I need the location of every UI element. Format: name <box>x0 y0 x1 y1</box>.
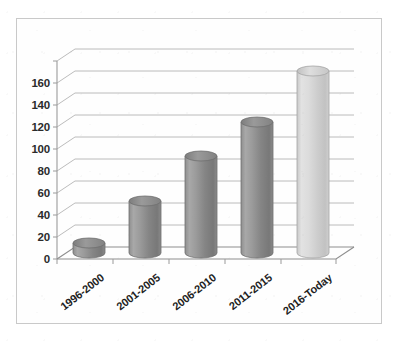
x-tick-label: 2006-2010 <box>170 271 218 312</box>
x-tick-label: 1996-2000 <box>58 271 106 312</box>
bar-2001-2005[interactable] <box>129 196 161 258</box>
y-tick-label: 60 <box>38 187 50 199</box>
x-axis-tick-labels: 1996-2000 2001-2005 2006-2010 2011-2015 … <box>58 271 335 317</box>
y-tick-label: 20 <box>38 231 50 243</box>
x-axis-ticks <box>57 259 336 264</box>
y-tick-label: 0 <box>44 253 50 265</box>
bar-1996-2000[interactable] <box>73 238 105 258</box>
bar-2006-2010[interactable] <box>185 151 217 258</box>
chart-frame: 0 20 40 60 80 100 120 140 160 <box>16 18 382 324</box>
x-tick-label: 2011-2015 <box>227 271 275 312</box>
x-tick-label: 2016-Today <box>281 271 335 317</box>
x-tick-label: 2001-2005 <box>114 271 162 312</box>
y-tick-label: 120 <box>31 121 50 133</box>
y-tick-label: 160 <box>31 77 50 89</box>
bar-2016-today[interactable] <box>297 66 329 258</box>
y-tick-label: 100 <box>31 143 50 155</box>
y-axis-tick-labels: 0 20 40 60 80 100 120 140 160 <box>31 77 50 265</box>
y-axis <box>53 61 57 259</box>
bar-2011-2015[interactable] <box>241 117 273 258</box>
bar-chart: 0 20 40 60 80 100 120 140 160 <box>17 19 383 325</box>
y-tick-label: 80 <box>38 165 50 177</box>
y-tick-label: 140 <box>31 99 50 111</box>
y-tick-label: 40 <box>38 209 50 221</box>
